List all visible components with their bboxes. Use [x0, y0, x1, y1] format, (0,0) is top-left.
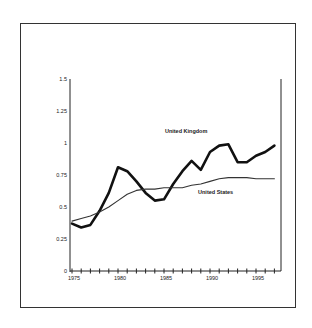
x-tick-label: 1980: [114, 275, 126, 281]
y-axis-ticks: 00.250.50.7511.251.5: [56, 76, 67, 274]
axes: [70, 79, 281, 272]
y-tick-label: 0: [64, 268, 67, 274]
x-tick-label: 1995: [252, 275, 264, 281]
y-tick-label: 1: [64, 140, 67, 146]
united-states-label: United States: [198, 189, 233, 195]
y-tick-label: 0.75: [56, 172, 67, 178]
x-tick-label: 1990: [206, 275, 218, 281]
series-lines: [72, 144, 274, 227]
y-tick-label: 0.25: [56, 236, 67, 242]
y-tick-label: 0.5: [59, 204, 67, 210]
y-tick-label: 1.25: [56, 108, 67, 114]
united-kingdom-line: [72, 144, 274, 227]
line-chart: 00.250.50.7511.251.5 1975198019851990199…: [0, 0, 312, 328]
y-tick-label: 1.5: [59, 76, 67, 82]
x-tick-label: 1975: [68, 275, 80, 281]
x-axis-ticks: 19751980198519901995: [68, 269, 275, 282]
united-kingdom-label: United Kingdom: [165, 128, 208, 134]
x-tick-label: 1985: [160, 275, 172, 281]
